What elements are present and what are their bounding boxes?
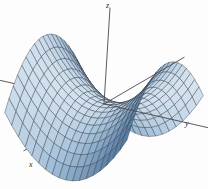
z-axis-label: z [106,2,109,10]
y-axis-label: y [185,120,189,128]
surface-plot-figure: z y x [0,0,208,189]
surface-mesh [5,34,203,181]
z-axis-line [104,8,110,104]
x-axis-label: x [29,161,33,169]
